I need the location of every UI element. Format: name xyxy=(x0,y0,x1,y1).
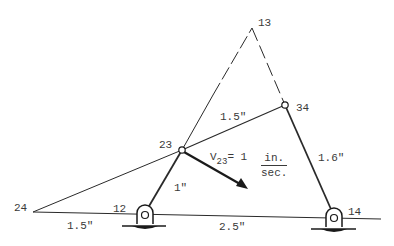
velocity-label: V23= 1 xyxy=(210,152,247,163)
node-label-34: 34 xyxy=(296,103,309,114)
pin-joint-icon xyxy=(179,147,185,153)
node-label-23: 23 xyxy=(159,140,172,151)
velocity-value: = 1 xyxy=(227,151,247,163)
velocity-unit: in. sec. xyxy=(261,153,287,179)
node-label-14: 14 xyxy=(348,207,361,218)
node-label-24: 24 xyxy=(14,203,27,214)
dimension-ground-12-14: 2.5" xyxy=(219,222,245,233)
node-label-13: 13 xyxy=(258,18,271,29)
dimension-crank: 1" xyxy=(174,183,187,194)
construction-line-23-13-solid xyxy=(182,95,213,150)
construction-line-13-34-dashed xyxy=(252,28,285,105)
construction-line-23-13-dashed xyxy=(213,28,252,95)
velocity-unit-denominator: sec. xyxy=(261,166,287,179)
node-label-12: 12 xyxy=(113,204,126,215)
dimension-rocker: 1.6" xyxy=(318,153,344,164)
velocity-symbol: V xyxy=(210,151,217,163)
velocity-unit-numerator: in. xyxy=(261,153,287,166)
velocity-subscript: 23 xyxy=(217,157,228,167)
linkage-diagram xyxy=(0,0,394,246)
dimension-coupler: 1.5" xyxy=(220,112,246,123)
construction-line-24-23 xyxy=(33,150,182,212)
ground-pivot-icon xyxy=(122,205,166,229)
pin-joint-icon xyxy=(282,102,288,108)
dimension-ground-24-12: 1.5" xyxy=(67,221,93,232)
